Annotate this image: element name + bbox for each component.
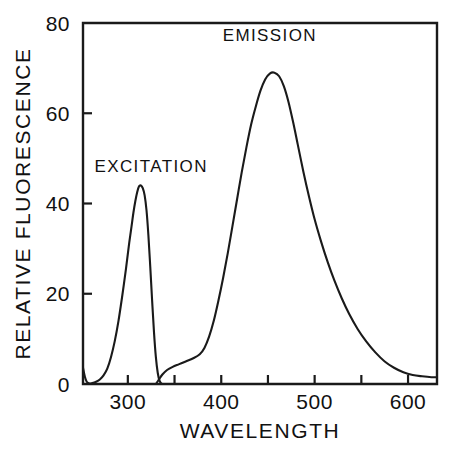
y-tick-label-0: 0: [58, 373, 70, 396]
x-tick-label-300: 300: [110, 390, 147, 413]
x-tick-label-400: 400: [203, 390, 240, 413]
figure-container: 300400500600 020406080 EXCITATIONEMISSIO…: [0, 0, 455, 459]
y-tick-label-60: 60: [46, 102, 70, 125]
y-axis-title: RELATIVE FLUORESCENCE: [11, 47, 34, 359]
y-tick-label-80: 80: [46, 12, 70, 35]
x-tick-label-600: 600: [390, 390, 427, 413]
fluorescence-spectrum-chart: 300400500600 020406080 EXCITATIONEMISSIO…: [0, 0, 455, 459]
series-annotations: EXCITATIONEMISSION: [94, 26, 317, 176]
plot-frame: [83, 23, 437, 384]
axes: [83, 23, 437, 384]
x-tick-label-500: 500: [296, 390, 333, 413]
data-curves: [83, 72, 437, 384]
annotation-excitation: EXCITATION: [94, 157, 208, 176]
annotation-emission: EMISSION: [223, 26, 317, 45]
x-tick-labels: 300400500600: [110, 390, 427, 413]
curve-emission: [156, 72, 437, 384]
y-tick-labels: 020406080: [46, 12, 70, 396]
y-tick-label-20: 20: [46, 282, 70, 305]
curve-excitation: [83, 185, 162, 384]
y-tick-label-40: 40: [46, 192, 70, 215]
x-axis-title: WAVELENGTH: [180, 419, 341, 442]
caption-strip: [0, 443, 455, 459]
